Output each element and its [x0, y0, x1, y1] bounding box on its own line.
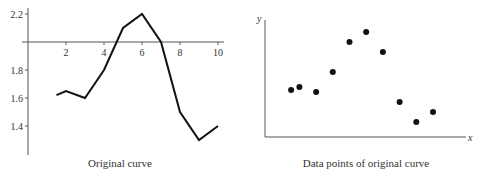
x-tick-label: 2 — [64, 47, 69, 58]
left-x-ticks: 246810 — [64, 42, 224, 58]
data-point — [330, 69, 336, 75]
data-point — [288, 87, 294, 93]
left-caption: Original curve — [88, 157, 152, 169]
y-tick-label: 1.6 — [11, 93, 24, 104]
y-tick-label: 2.2 — [11, 9, 24, 20]
data-point — [430, 109, 436, 115]
original-curve-chart: 2.21.81.61.4 246810 Original curve — [11, 8, 225, 169]
data-point — [363, 29, 369, 35]
x-tick-label: 6 — [140, 47, 145, 58]
y-tick-label: 1.8 — [11, 65, 24, 76]
data-points-chart: y x Data points of original curve — [256, 13, 473, 169]
x-tick-label: 10 — [213, 47, 223, 58]
left-y-ticks: 2.21.81.61.4 — [11, 9, 29, 132]
x-tick-label: 4 — [102, 47, 107, 58]
data-point — [380, 49, 386, 55]
y-tick-label: 1.4 — [11, 121, 24, 132]
data-point — [413, 119, 419, 125]
right-x-label: x — [467, 132, 473, 143]
figure: 2.21.81.61.4 246810 Original curve y x D… — [0, 0, 484, 182]
data-point — [397, 99, 403, 105]
right-y-label: y — [256, 13, 262, 24]
x-tick-label: 8 — [178, 47, 183, 58]
original-curve-line — [57, 14, 219, 140]
data-point — [296, 84, 302, 90]
data-point — [347, 39, 353, 45]
right-caption: Data points of original curve — [303, 157, 430, 169]
data-points — [288, 29, 436, 125]
data-point — [313, 89, 319, 95]
